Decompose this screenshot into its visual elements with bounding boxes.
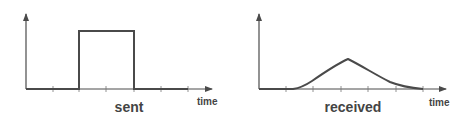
sent-label: sent: [115, 99, 144, 115]
received-time-label: time: [429, 97, 450, 108]
sent-pulse-curve: [26, 31, 188, 89]
sent-time-label: time: [197, 96, 218, 107]
received-pulse-curve: [259, 59, 423, 89]
received-label: received: [325, 99, 382, 115]
signal-diagram: sent time received time: [0, 0, 467, 119]
sent-panel: sent time: [26, 14, 218, 115]
received-panel: received time: [259, 14, 450, 115]
